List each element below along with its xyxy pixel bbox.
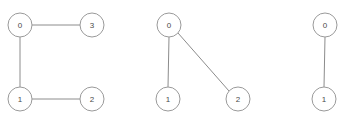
graph-node-0[interactable]: 0 bbox=[313, 13, 337, 37]
edge-layer bbox=[20, 25, 80, 99]
graph-node-1[interactable]: 1 bbox=[156, 87, 180, 111]
node-label: 0 bbox=[167, 21, 172, 30]
graph-node-1[interactable]: 1 bbox=[312, 87, 336, 111]
graph-figure-canvas: 031201201 bbox=[0, 0, 348, 126]
graph-node-0[interactable]: 0 bbox=[157, 13, 181, 37]
graph-3: 01 bbox=[312, 13, 337, 111]
node-label: 1 bbox=[166, 95, 171, 104]
graph-node-0[interactable]: 0 bbox=[8, 13, 32, 37]
node-label: 1 bbox=[322, 95, 327, 104]
node-label: 0 bbox=[18, 21, 23, 30]
node-label: 1 bbox=[18, 95, 23, 104]
graph-node-3[interactable]: 3 bbox=[80, 13, 104, 37]
graph-node-1[interactable]: 1 bbox=[8, 87, 32, 111]
graph-node-2[interactable]: 2 bbox=[80, 87, 104, 111]
node-label: 0 bbox=[323, 21, 328, 30]
graph-node-2[interactable]: 2 bbox=[226, 87, 250, 111]
node-layer: 0312 bbox=[8, 13, 104, 111]
node-label: 3 bbox=[90, 21, 95, 30]
graph-2: 012 bbox=[156, 13, 250, 111]
node-label: 2 bbox=[90, 95, 95, 104]
edge-layer bbox=[168, 33, 229, 91]
graph-edge-0-1 bbox=[324, 37, 325, 87]
edge-layer bbox=[324, 37, 325, 87]
graph-edge-0-1 bbox=[168, 37, 169, 87]
graph-edge-0-2 bbox=[178, 33, 229, 91]
node-label: 2 bbox=[236, 95, 241, 104]
graph-collection: 031201201 bbox=[0, 0, 348, 126]
graph-1: 0312 bbox=[8, 13, 104, 111]
